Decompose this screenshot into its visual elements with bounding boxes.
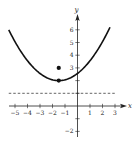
x-tick-label: 3 [113,109,117,116]
x-tick-label: 2 [101,109,105,116]
x-tick-label: 1 [88,109,92,116]
y-tick-label: 4 [70,51,74,58]
x-axis-label: x [128,102,132,110]
y-axis-label: y [74,6,80,14]
point-marker [57,79,61,83]
x-tick-label: −2 [48,109,57,116]
function-plot: −5−4−3−2−11236543−2 x y [0,0,135,144]
x-tick-label: −4 [23,109,32,116]
y-tick-label: 6 [70,26,74,33]
data-points [57,66,61,83]
y-tick-label: 5 [70,39,74,46]
x-tick-label: −3 [36,109,45,116]
axes [9,14,127,137]
y-tick-label: −2 [65,127,74,134]
x-tick-label: −1 [61,109,70,116]
parabola-curve [9,27,110,80]
point-marker [57,66,61,70]
y-tick-label: 3 [70,64,74,71]
x-tick-label: −5 [11,109,20,116]
